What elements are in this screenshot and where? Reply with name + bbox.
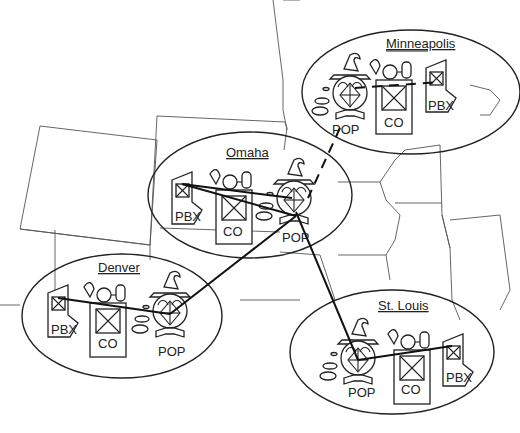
link-omaha-minneapolis	[308, 128, 340, 198]
pop-label: POP	[158, 344, 185, 359]
city-label-minneapolis: Minneapolis	[386, 36, 456, 51]
pop-label: POP	[348, 385, 375, 400]
pbx-label: PBX	[446, 370, 472, 385]
pbx-label: PBX	[428, 98, 454, 113]
site-denver: Denver PBX CO POP	[48, 260, 190, 359]
pbx-label: PBX	[175, 209, 201, 224]
site-omaha: Omaha PBX CO POP	[172, 145, 314, 245]
link-omaha-stlouis	[296, 212, 358, 360]
pop-icon	[320, 318, 378, 384]
co-label: CO	[401, 382, 421, 397]
site-stlouis: St. Louis POP CO PBX	[320, 298, 473, 404]
city-label-stlouis: St. Louis	[378, 298, 429, 313]
co-label: CO	[223, 224, 243, 239]
pbx-label: PBX	[51, 322, 77, 337]
network-map-diagram: Minneapolis POP CO PBX Omaha PBX CO POP …	[0, 0, 520, 433]
city-label-omaha: Omaha	[226, 145, 269, 160]
city-label-denver: Denver	[98, 260, 141, 275]
co-label: CO	[98, 336, 118, 351]
site-minneapolis: Minneapolis POP CO PBX	[312, 36, 456, 137]
pop-icon	[312, 53, 370, 119]
pop-icon	[256, 158, 314, 224]
co-label: CO	[384, 115, 404, 130]
